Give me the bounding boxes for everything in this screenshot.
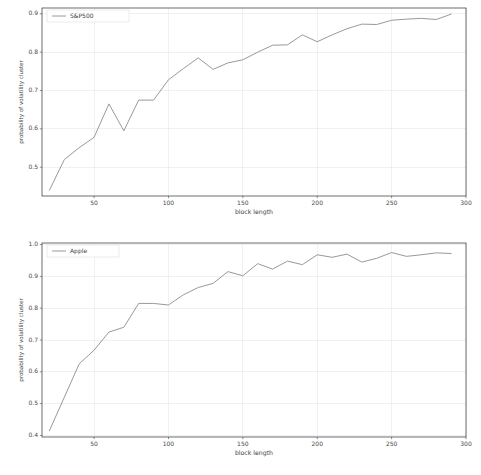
x-tick-label: 300 (460, 440, 472, 447)
x-axis-title-sp500: block length (235, 208, 273, 216)
series-line-apple (49, 253, 451, 431)
tick-marks-apple (40, 245, 466, 440)
x-tick-label: 150 (237, 199, 249, 206)
x-tick-label: 250 (386, 199, 398, 206)
y-tick-label: 0.5 (28, 163, 38, 170)
x-axis-title-apple: block length (235, 449, 273, 457)
gridlines-sp500 (42, 8, 466, 196)
sp500-svg: 501001502002503000.50.60.70.80.9 S&P500 … (0, 0, 481, 232)
y-tick-label: 0.7 (28, 336, 38, 343)
x-tick-label: 300 (460, 199, 472, 206)
chart-figure-sp500: 501001502002503000.50.60.70.80.9 S&P500 … (0, 0, 481, 232)
legend-apple[interactable]: Apple (47, 245, 119, 257)
y-tick-label: 0.9 (28, 272, 38, 279)
y-axis-title-apple: probability of volatility cluster (18, 297, 25, 381)
y-tick-label: 0.6 (28, 367, 38, 374)
chart-page: 501001502002503000.50.60.70.80.9 S&P500 … (0, 0, 481, 475)
x-tick-label: 250 (386, 440, 398, 447)
legend-label: Apple (70, 247, 87, 255)
y-tick-label: 0.9 (28, 9, 38, 16)
y-tick-label: 0.8 (28, 48, 38, 55)
gridlines-apple (42, 243, 466, 437)
chart-figure-apple: 501001502002503000.40.50.60.70.80.91.0 A… (0, 235, 481, 475)
legend-label: S&P500 (70, 12, 94, 19)
y-tick-label: 0.8 (28, 304, 38, 311)
apple-svg: 501001502002503000.40.50.60.70.80.91.0 A… (0, 235, 481, 475)
y-tick-label: 0.6 (28, 124, 38, 131)
tick-labels-sp500: 501001502002503000.50.60.70.80.9 (28, 9, 471, 206)
y-tick-label: 0.4 (28, 431, 38, 438)
x-tick-label: 100 (163, 440, 175, 447)
x-tick-label: 200 (312, 199, 324, 206)
x-tick-label: 50 (90, 199, 98, 206)
y-tick-label: 0.5 (28, 399, 38, 406)
x-tick-label: 50 (90, 440, 98, 447)
legend-sp500[interactable]: S&P500 (47, 10, 129, 22)
plot-frame-sp500 (42, 8, 466, 196)
series-line-sp500 (49, 14, 451, 190)
tick-labels-apple: 501001502002503000.40.50.60.70.80.91.0 (28, 240, 471, 447)
x-tick-label: 100 (163, 199, 175, 206)
x-tick-label: 200 (312, 440, 324, 447)
y-axis-title-sp500: probability of volatility cluster (18, 59, 25, 143)
y-tick-label: 0.7 (28, 86, 38, 93)
tick-marks-sp500 (40, 14, 466, 198)
y-tick-label: 1.0 (28, 240, 38, 247)
x-tick-label: 150 (237, 440, 249, 447)
